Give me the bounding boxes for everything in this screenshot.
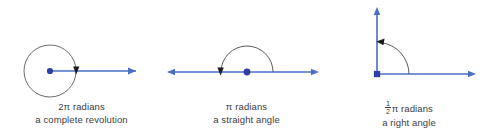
angle-description-label: a right angle [330,116,488,129]
angle-unit-text: radians [401,103,433,114]
vertex-dot [374,71,380,77]
angle-measure-label: 1 2 π radians [330,100,488,116]
ray-arrowhead-icon [128,68,136,75]
panel-right-angle: 1 2 π radians a right angle [330,0,488,140]
caption-straight-angle: π radians a straight angle [163,100,330,126]
angle-measure-label: 2π radians [0,100,163,113]
fraction-numerator: 1 [385,100,391,107]
complete-revolution-diagram [0,0,163,100]
fraction-denominator: 2 [385,107,391,115]
right-angle-diagram [330,0,488,100]
right-angle-arc [381,43,409,74]
straight-angle-diagram [163,0,330,100]
horizontal-arrowhead-icon [468,71,476,78]
vertex-dot [244,69,251,76]
panel-straight-angle: π radians a straight angle [163,0,330,140]
straight-angle-arc [221,46,273,72]
one-half-fraction: 1 2 [385,100,391,116]
caption-complete-revolution: 2π radians a complete revolution [0,100,163,126]
angle-description-label: a straight angle [163,113,330,126]
angle-description-label: a complete revolution [0,113,163,126]
vertex-dot [47,68,53,74]
angle-measure-label: π radians [163,100,330,113]
left-arrowhead-icon [167,69,175,75]
radian-angles-figure: 2π radians a complete revolution π radia… [0,0,488,140]
right-arrowhead-icon [311,69,319,75]
caption-right-angle: 1 2 π radians a right angle [330,100,488,129]
vertical-arrowhead-icon [374,7,381,15]
panel-complete-revolution: 2π radians a complete revolution [0,0,163,140]
